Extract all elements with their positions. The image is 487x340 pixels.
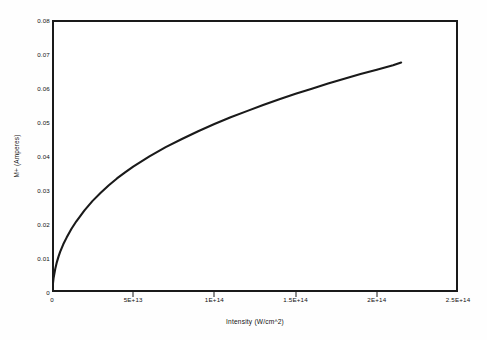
x-tick-label: 2E+14 xyxy=(367,296,386,303)
figure-canvas: M+ (Amperes) 00.010.020.030.040.050.060.… xyxy=(0,0,487,340)
y-tick-label: 0.01 xyxy=(4,255,50,262)
x-tick-label: 5E+13 xyxy=(124,296,143,303)
x-axis-title: Intensity (W/cm^2) xyxy=(226,318,284,325)
y-tick-label: 0.02 xyxy=(4,221,50,228)
y-axis-tick-labels: 00.010.020.030.040.050.060.070.08 xyxy=(0,0,50,340)
y-tick-label: 0 xyxy=(4,289,50,296)
y-tick-label: 0.07 xyxy=(4,51,50,58)
x-tick-label: 1.5E+14 xyxy=(283,296,308,303)
y-tick-label: 0.03 xyxy=(4,187,50,194)
series-m-plus-signal xyxy=(52,63,401,293)
x-tick-label: 2.5E+14 xyxy=(446,296,471,303)
y-tick-label: 0.04 xyxy=(4,153,50,160)
x-tick-label: 1E+14 xyxy=(205,296,224,303)
data-curve xyxy=(52,20,458,292)
y-tick-label: 0.06 xyxy=(4,85,50,92)
y-tick-label: 0.05 xyxy=(4,119,50,126)
x-tick-label: 0 xyxy=(50,296,54,303)
y-tick-label: 0.08 xyxy=(4,17,50,24)
